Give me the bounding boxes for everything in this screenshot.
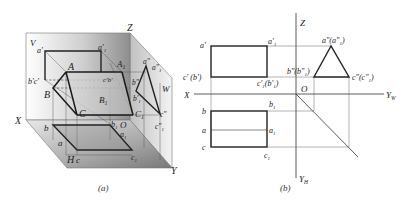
label-c-dprime: c" [160,110,167,119]
axis-label-z: Z [127,22,133,33]
label-a-dprime: a"(a"1) [322,36,345,46]
label-a-dprime: a" [143,57,151,66]
diagonal-45 [296,94,358,157]
label-bc-prime: b'c' [28,77,39,86]
origin-label: O [120,120,127,130]
label-a: a [202,126,206,135]
axis-label-x: X [14,115,22,126]
label-a1-prime: a'1 [268,37,276,47]
axes [194,13,384,178]
side-view [314,46,349,77]
axis-label-y: Y [171,165,178,176]
axis-label-yw: YW [386,90,396,101]
panel-b-orthographic: Z X O YW YH a' a'1 c' (b') c'1(b'1) a"(a… [183,13,396,193]
label-b: b [44,123,49,133]
label-c1: c1 [264,151,270,161]
vertex-label-c: C [79,108,86,119]
label-b-dprime: b" [132,78,140,87]
front-view [211,46,267,77]
label-b: b [202,107,206,116]
label-c-dprime: c"(c"1) [352,73,374,83]
label-c1b1-prime: c'1(b'1) [257,79,279,89]
label-a-prime: a' [200,41,206,50]
label-a-prime: a' [37,46,43,55]
label-c1b1-prime: c'b' [103,76,113,84]
plane-label-h: H [66,154,75,165]
axis-label-x: X [183,90,190,100]
label-a1-dprime: a"1 [152,63,161,73]
projection-figure: Z X Y O V H W A B C A1 B1 C1 a' a'1 b'c'… [0,0,409,210]
label-cb-prime: c' (b') [183,73,202,82]
axis-label-z: Z [300,18,306,28]
label-c: c [76,155,80,165]
label-a: a [58,138,63,148]
axis-label-yh: YH [299,174,309,185]
caption-a: (a) [98,183,109,193]
vertex-label-a: A [67,61,75,72]
top-view [211,111,267,147]
label-a1: a1 [269,126,276,136]
projector-lines [211,46,349,147]
label-b-dprime: b"(b"1) [287,67,310,77]
origin-label: O [301,84,308,94]
label-c: c [202,143,206,152]
label-b1: b1 [269,100,276,110]
caption-b: (b) [280,183,291,193]
vertex-label-b: B [44,89,50,100]
panel-a-pictorial: Z X Y O V H W A B C A1 B1 C1 a' a'1 b'c'… [14,22,178,193]
